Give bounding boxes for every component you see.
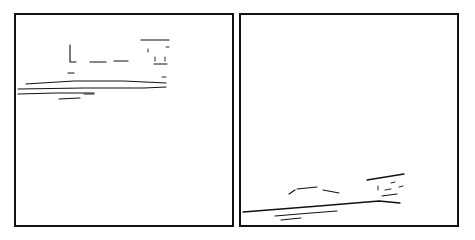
sketch-canvas-stage: Two-panel line sketch [0,0,475,240]
ground-line-main [243,201,400,212]
right-panel-drawing-area[interactable] [239,13,459,227]
vertical-post [70,45,76,62]
dash-segment-b [323,190,339,193]
ground-line-main [18,87,166,89]
left-sketch-panel[interactable] [14,13,234,227]
ground-tick-short [281,218,301,220]
right-sketch-panel[interactable] [239,13,459,227]
detail-mark-3 [385,189,391,190]
ground-line-lower [18,93,94,94]
ground-line-echo [275,211,337,216]
detail-mark-2 [391,182,395,183]
upper-bar [367,174,404,180]
detail-bar-small [382,194,397,196]
left-panel-stroke-layer [14,13,234,227]
dash-segment-a [297,187,317,189]
ground-tick-short [59,98,80,99]
right-panel-stroke-layer [239,13,459,227]
corner-mark [289,190,295,194]
ground-line-upper [26,81,166,84]
detail-mark-4 [399,186,403,187]
left-panel-drawing-area[interactable] [14,13,234,227]
